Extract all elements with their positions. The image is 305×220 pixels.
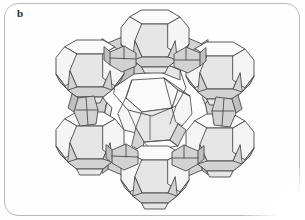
panel-label: b: [17, 8, 23, 19]
zeolite-framework-diagram: .o { stroke:#4a4a4a; stroke-width:0.9; s…: [0, 0, 305, 220]
figure-panel: .o { stroke:#4a4a4a; stroke-width:0.9; s…: [0, 0, 305, 220]
